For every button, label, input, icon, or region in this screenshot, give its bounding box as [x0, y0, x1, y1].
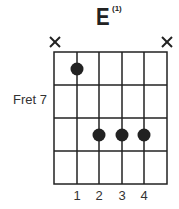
chord-superscript: (1)	[112, 4, 122, 13]
finger-number-3: 3	[118, 188, 125, 203]
finger-number-1: 1	[73, 188, 80, 203]
fretboard-grid	[54, 52, 167, 184]
muted-string-1-icon	[50, 37, 60, 47]
finger-dot-1	[71, 63, 84, 76]
finger-number-4: 4	[140, 188, 147, 203]
finger-dot-3	[116, 129, 129, 142]
finger-dot-2	[93, 129, 106, 142]
fret-label: Fret 7	[13, 92, 47, 107]
finger-dot-4	[138, 129, 151, 142]
chord-diagram: E (1) Fret 7 1 2 3 4	[0, 0, 179, 209]
finger-number-2: 2	[95, 188, 102, 203]
muted-string-6-icon	[162, 37, 172, 47]
chord-name: E	[96, 3, 110, 30]
